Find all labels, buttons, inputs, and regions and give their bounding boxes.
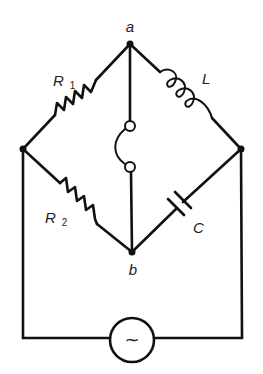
label-a: a — [126, 18, 134, 35]
node-left — [20, 146, 27, 153]
branch-l — [130, 44, 241, 149]
label-l: L — [202, 70, 210, 87]
branch-r1 — [23, 44, 130, 149]
label-r1: R 1 — [53, 72, 76, 91]
branch-r2 — [23, 149, 132, 252]
label-c: C — [193, 219, 204, 236]
label-b: b — [129, 261, 137, 278]
detector-icon — [115, 121, 135, 172]
node-right — [238, 146, 245, 153]
branch-detector — [115, 44, 135, 252]
branch-c — [132, 149, 241, 252]
node-b — [129, 249, 136, 256]
svg-text:~: ~ — [124, 329, 139, 350]
capacitor-c-icon — [168, 192, 191, 215]
bridge-circuit-diagram: ~ a b R 1 L R 2 C — [0, 0, 263, 374]
label-r2: R 2 — [45, 209, 68, 228]
ac-source-icon: ~ — [110, 318, 154, 362]
node-a — [127, 41, 134, 48]
